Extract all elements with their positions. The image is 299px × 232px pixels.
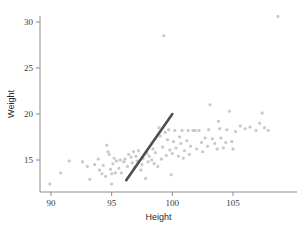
data-point bbox=[134, 155, 137, 158]
data-point bbox=[137, 149, 140, 152]
data-point bbox=[172, 140, 175, 143]
data-point bbox=[150, 159, 153, 162]
data-point bbox=[88, 178, 91, 181]
data-point bbox=[126, 165, 129, 168]
data-point bbox=[154, 151, 157, 154]
data-point bbox=[81, 160, 84, 163]
data-point bbox=[194, 129, 197, 132]
data-point bbox=[166, 138, 169, 141]
data-point bbox=[168, 148, 171, 151]
data-point bbox=[173, 129, 176, 132]
x-tick-label: 105 bbox=[226, 198, 240, 208]
data-point bbox=[100, 172, 103, 175]
data-point bbox=[201, 150, 204, 153]
data-point bbox=[153, 162, 156, 165]
data-point bbox=[157, 126, 160, 129]
x-tick-label: 95 bbox=[107, 198, 117, 208]
data-point bbox=[141, 163, 144, 166]
data-point bbox=[147, 160, 150, 163]
data-point bbox=[200, 141, 203, 144]
data-point bbox=[276, 15, 279, 18]
scatter-plot: 152025309095100105HeightWeight bbox=[0, 0, 299, 232]
data-point bbox=[109, 168, 112, 171]
data-point bbox=[181, 129, 184, 132]
data-point bbox=[48, 182, 51, 185]
data-point bbox=[139, 169, 142, 172]
data-point bbox=[113, 157, 116, 160]
data-point bbox=[132, 150, 135, 153]
data-point bbox=[102, 164, 105, 167]
data-point bbox=[188, 153, 191, 156]
data-point bbox=[177, 155, 180, 158]
data-point bbox=[195, 147, 198, 150]
data-point bbox=[244, 127, 247, 130]
data-point bbox=[165, 154, 168, 157]
data-point bbox=[218, 127, 221, 130]
data-point bbox=[248, 125, 251, 128]
data-point bbox=[114, 171, 117, 174]
y-tick-label: 15 bbox=[24, 155, 34, 165]
data-point bbox=[162, 34, 165, 37]
data-point bbox=[178, 136, 181, 139]
data-point bbox=[174, 147, 177, 150]
data-point bbox=[59, 171, 62, 174]
y-tick-label: 20 bbox=[24, 109, 34, 119]
data-point bbox=[164, 131, 167, 134]
data-point bbox=[267, 129, 270, 132]
data-point bbox=[228, 110, 231, 113]
data-point bbox=[120, 171, 123, 174]
fitted-regression-line bbox=[126, 114, 172, 180]
data-point bbox=[127, 153, 130, 156]
data-points-group bbox=[48, 15, 279, 185]
data-point bbox=[119, 159, 122, 162]
data-point bbox=[230, 140, 233, 143]
data-point bbox=[110, 172, 113, 175]
data-point bbox=[207, 128, 210, 131]
data-point bbox=[224, 141, 227, 144]
data-point bbox=[198, 129, 201, 132]
data-point bbox=[68, 159, 71, 162]
data-point bbox=[144, 177, 147, 180]
data-point bbox=[167, 128, 170, 131]
data-point bbox=[187, 129, 190, 132]
y-tick-label: 25 bbox=[24, 63, 34, 73]
data-point bbox=[156, 165, 159, 168]
x-tick-label: 100 bbox=[166, 198, 180, 208]
data-point bbox=[115, 159, 118, 162]
data-point bbox=[170, 173, 173, 176]
data-point bbox=[208, 103, 211, 106]
data-point bbox=[171, 152, 174, 155]
data-point bbox=[239, 124, 242, 127]
data-point bbox=[110, 182, 113, 185]
data-point bbox=[225, 128, 228, 131]
data-point bbox=[204, 136, 207, 139]
data-point bbox=[117, 167, 120, 170]
data-point bbox=[211, 137, 214, 140]
data-point bbox=[124, 158, 127, 161]
data-point bbox=[98, 169, 101, 172]
data-point bbox=[130, 156, 133, 159]
data-point bbox=[108, 153, 111, 156]
data-point bbox=[160, 158, 163, 161]
data-point bbox=[263, 126, 266, 129]
data-point bbox=[122, 160, 125, 163]
x-tick-label: 90 bbox=[47, 198, 57, 208]
data-point bbox=[183, 149, 186, 152]
data-point bbox=[131, 161, 134, 164]
x-axis-title: Height bbox=[145, 212, 172, 222]
data-point bbox=[232, 147, 235, 150]
data-point bbox=[222, 147, 225, 150]
data-point bbox=[179, 142, 182, 145]
data-point bbox=[107, 150, 110, 153]
data-point bbox=[105, 144, 108, 147]
data-point bbox=[261, 112, 264, 115]
data-point bbox=[104, 175, 107, 178]
data-point bbox=[185, 139, 188, 142]
y-axis-title: Weight bbox=[6, 90, 16, 118]
data-point bbox=[217, 120, 220, 123]
data-point bbox=[151, 147, 154, 150]
data-point bbox=[161, 146, 164, 149]
data-point bbox=[148, 155, 151, 158]
data-point bbox=[182, 157, 185, 160]
plot-canvas: 152025309095100105HeightWeight bbox=[0, 0, 299, 232]
